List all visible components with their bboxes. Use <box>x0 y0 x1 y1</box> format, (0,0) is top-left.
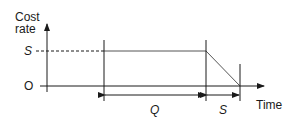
span-q-label: Q <box>150 104 159 116</box>
y-axis-label-line2: rate <box>15 23 36 35</box>
span-s-label: S <box>219 104 227 116</box>
decline-line <box>206 51 240 86</box>
cost-rate-diagram <box>0 0 294 126</box>
x-axis-label: Time <box>256 99 282 111</box>
tick-s-label: S <box>24 45 32 57</box>
tick-o-label: O <box>24 80 33 92</box>
